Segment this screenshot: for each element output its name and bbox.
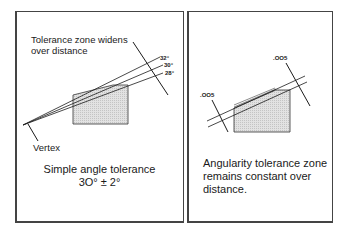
angularity-caption: Angularity tolerance zone remains consta… [203,157,327,196]
vertex-label: Vertex [33,142,60,153]
tolerance-label-right: .OO5 [273,55,287,61]
vertex-leader-line [28,124,38,141]
tolerance-leader-left [212,100,228,132]
angle-label-32: 32° [160,55,169,61]
zone-annotation: Tolerance zone widens over distance [31,34,128,56]
workpiece-block-left [73,85,128,124]
simple-angle-caption: Simple angle tolerance 3O° ± 2° [15,163,184,189]
zone-leader-line [133,42,168,95]
angle-label-30: 30° [164,62,173,68]
angle-label-28: 28° [165,70,174,76]
tolerance-label-left: .OO5 [200,92,214,98]
